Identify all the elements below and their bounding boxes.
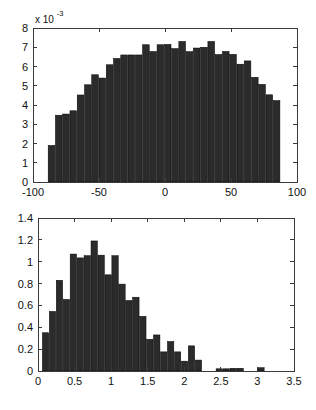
y-tick-label: 8	[22, 22, 28, 34]
histogram-bar	[193, 48, 200, 182]
x-tick-label: 2	[181, 375, 187, 387]
top-histogram-panel: -100-50050100 012345678 x 10 -3	[0, 0, 316, 205]
y-tick-label: 1.4	[18, 212, 33, 224]
histogram-bar	[186, 52, 193, 182]
x-tick-label: 3	[254, 375, 260, 387]
histogram-bar	[266, 95, 273, 182]
y-tick-label: 1	[27, 256, 33, 268]
bottom-histogram-bars	[42, 241, 264, 371]
histogram-bar	[56, 280, 62, 371]
x-tick-label: 3.5	[286, 375, 301, 387]
y-tick-label: 3	[22, 118, 28, 130]
y-tick-label: 0	[22, 176, 28, 188]
figure-container: -100-50050100 012345678 x 10 -3 00.511.5…	[0, 0, 316, 410]
y-tick-label: 7	[22, 41, 28, 53]
histogram-bar	[157, 45, 164, 182]
histogram-bar	[63, 114, 70, 182]
histogram-bar	[84, 85, 91, 182]
y-tick-label: 1.2	[18, 234, 33, 246]
top-histogram-yticklabels: 012345678	[22, 22, 28, 188]
y-tick-label: 4	[22, 99, 28, 111]
histogram-bar	[179, 41, 186, 182]
histogram-bar	[164, 44, 171, 182]
histogram-bar	[154, 335, 160, 371]
y-tick-label: 0	[27, 365, 33, 377]
histogram-bar	[208, 41, 215, 182]
histogram-bar	[215, 55, 222, 182]
x-tick-label: 0	[35, 375, 41, 387]
y-tick-label: 2	[22, 138, 28, 150]
top-histogram-bars	[48, 41, 280, 182]
histogram-bar	[237, 64, 244, 182]
histogram-bar	[128, 55, 135, 182]
histogram-bar	[195, 360, 201, 371]
histogram-bar	[135, 55, 142, 182]
x-tick-label: 0.5	[67, 375, 82, 387]
histogram-bar	[174, 352, 180, 371]
histogram-bar	[63, 299, 69, 371]
histogram-bar	[222, 51, 229, 182]
histogram-bar	[55, 115, 62, 182]
histogram-bar	[112, 256, 118, 371]
histogram-bar	[259, 84, 266, 182]
histogram-bar	[105, 275, 111, 371]
histogram-bar	[70, 111, 77, 182]
histogram-bar	[150, 51, 157, 182]
bottom-histogram-svg: 00.511.522.533.5 00.20.40.60.811.21.4	[0, 205, 316, 410]
histogram-bar	[244, 61, 251, 182]
histogram-bar	[91, 241, 97, 371]
y-tick-label: 5	[22, 80, 28, 92]
y-tick-label: 0.8	[18, 278, 33, 290]
histogram-bar	[42, 333, 48, 371]
histogram-bar	[99, 78, 106, 182]
histogram-bar	[121, 55, 128, 182]
y-tick-label: 1	[22, 157, 28, 169]
x-tick-label: 0	[162, 186, 168, 198]
histogram-bar	[70, 254, 76, 371]
histogram-bar	[77, 95, 84, 182]
x-tick-label: -50	[91, 186, 107, 198]
histogram-bar	[172, 49, 179, 182]
histogram-bar	[230, 54, 237, 182]
x-tick-label: 1	[108, 375, 114, 387]
y-tick-label: 0.4	[18, 321, 33, 333]
histogram-bar	[77, 258, 83, 371]
histogram-bar	[161, 352, 167, 371]
histogram-bar	[98, 255, 104, 371]
top-histogram-exponent-label: x 10 -3	[35, 9, 63, 26]
histogram-bar	[126, 301, 132, 371]
histogram-bar	[201, 47, 208, 182]
histogram-bar	[133, 297, 139, 371]
bottom-histogram-xticklabels: 00.511.522.533.5	[35, 375, 302, 387]
histogram-bar	[48, 145, 55, 182]
histogram-bar	[119, 284, 125, 371]
histogram-bar	[49, 311, 55, 371]
bottom-histogram-yticklabels: 00.20.40.60.811.21.4	[18, 212, 33, 377]
x-tick-label: 100	[288, 186, 306, 198]
histogram-bar	[167, 341, 173, 371]
histogram-bar	[147, 339, 153, 371]
histogram-bar	[143, 45, 150, 182]
x-tick-label: 50	[225, 186, 237, 198]
top-histogram-xticklabels: -100-50050100	[22, 186, 306, 198]
histogram-bar	[140, 316, 146, 371]
x-tick-label: 2.5	[213, 375, 228, 387]
y-tick-label: 0.6	[18, 299, 33, 311]
y-tick-label: 0.2	[18, 343, 33, 355]
histogram-bar	[273, 101, 280, 182]
histogram-bar	[188, 346, 194, 371]
top-histogram-svg: -100-50050100 012345678 x 10 -3	[0, 0, 316, 205]
x-tick-label: 1.5	[140, 375, 155, 387]
histogram-bar	[251, 77, 258, 182]
y-tick-label: 6	[22, 61, 28, 73]
histogram-bar	[114, 58, 121, 182]
bottom-histogram-panel: 00.511.522.533.5 00.20.40.60.811.21.4	[0, 205, 316, 410]
histogram-bar	[92, 75, 99, 182]
histogram-bar	[84, 256, 90, 371]
histogram-bar	[106, 65, 113, 182]
